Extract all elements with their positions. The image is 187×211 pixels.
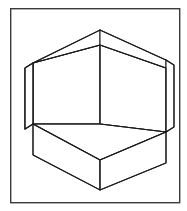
isometric-corner-seat-drawing	[0, 0, 187, 211]
figure-container: Isometric corner seat line drawing Outli…	[0, 0, 187, 211]
left-wall-inner-face	[33, 45, 100, 124]
right-wall-end-cap	[166, 60, 174, 132]
left-wall-outer-face	[25, 63, 33, 129]
